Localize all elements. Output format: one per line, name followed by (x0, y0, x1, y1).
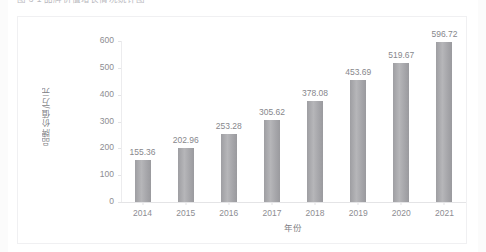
bar-group: 519.672020 (380, 41, 423, 202)
y-tick-label: 400 (100, 89, 114, 100)
y-tick-label: 500 (100, 62, 114, 73)
x-tick-mark (142, 202, 143, 205)
bar-group: 378.082018 (294, 41, 337, 202)
y-axis-tick: 200 (18, 148, 121, 149)
x-tick-mark (228, 202, 229, 205)
y-axis-tick: 500 (18, 68, 121, 69)
bar-value-label: 453.69 (345, 67, 371, 77)
figure-caption: 图 3-1 品牌价值增长情况统计图 (17, 0, 317, 5)
bar-group: 155.362014 (121, 41, 164, 202)
plot-area: 155.362014202.962015253.282016305.622017… (121, 41, 466, 202)
x-axis-line (121, 202, 466, 203)
y-axis-tick: 400 (18, 95, 121, 96)
bar[interactable] (178, 148, 194, 202)
bar-value-label: 305.62 (259, 107, 285, 117)
x-tick-mark (271, 202, 272, 205)
x-tick-label: 2018 (306, 208, 325, 219)
x-tick-label: 2021 (435, 208, 454, 219)
y-tick-label: 600 (100, 35, 114, 46)
x-tick-label: 2020 (392, 208, 411, 219)
bar-value-label: 596.72 (431, 29, 457, 39)
page-right-margin (478, 0, 486, 252)
bar-value-label: 202.96 (173, 135, 199, 145)
bar[interactable] (307, 101, 323, 202)
y-axis-tick: 600 (18, 41, 121, 42)
x-tick-label: 2014 (133, 208, 152, 219)
y-tick-mark (118, 202, 121, 203)
x-tick-mark (358, 202, 359, 205)
y-tick-label: 200 (100, 142, 114, 153)
bar-value-label: 253.28 (216, 121, 242, 131)
y-axis-tick: 0 (18, 202, 121, 203)
bar[interactable] (393, 63, 409, 202)
bar-value-label: 378.08 (302, 88, 328, 98)
x-tick-label: 2015 (176, 208, 195, 219)
bar-group: 253.282016 (207, 41, 250, 202)
bar-group: 453.692019 (337, 41, 380, 202)
x-tick-mark (401, 202, 402, 205)
y-axis-title: 品牌价值/万元 (41, 87, 55, 146)
y-tick-label: 0 (109, 196, 114, 207)
x-tick-label: 2019 (349, 208, 368, 219)
bar[interactable] (350, 80, 366, 202)
y-tick-label: 300 (100, 116, 114, 127)
bar[interactable] (221, 134, 237, 202)
y-axis-tick: 100 (18, 175, 121, 176)
x-tick-mark (444, 202, 445, 205)
bar-value-label: 155.36 (130, 147, 156, 157)
x-tick-mark (315, 202, 316, 205)
bar[interactable] (264, 120, 280, 202)
chart-frame: 品牌价值/万元 0100200300400500600 155.36201420… (17, 16, 467, 244)
bar-group: 202.962015 (164, 41, 207, 202)
bar[interactable] (436, 42, 452, 202)
bar-value-label: 519.67 (388, 50, 414, 60)
bar-group: 305.622017 (250, 41, 293, 202)
y-axis-tick: 300 (18, 122, 121, 123)
bar[interactable] (135, 160, 151, 202)
x-tick-mark (185, 202, 186, 205)
bar-group: 596.722021 (423, 41, 466, 202)
x-tick-label: 2017 (262, 208, 281, 219)
page-left-margin (0, 0, 8, 252)
x-axis-title: 年份 (121, 221, 466, 233)
x-tick-label: 2016 (219, 208, 238, 219)
y-tick-label: 100 (100, 169, 114, 180)
document-page: 图 3-1 品牌价值增长情况统计图 品牌价值/万元 01002003004005… (0, 0, 486, 252)
